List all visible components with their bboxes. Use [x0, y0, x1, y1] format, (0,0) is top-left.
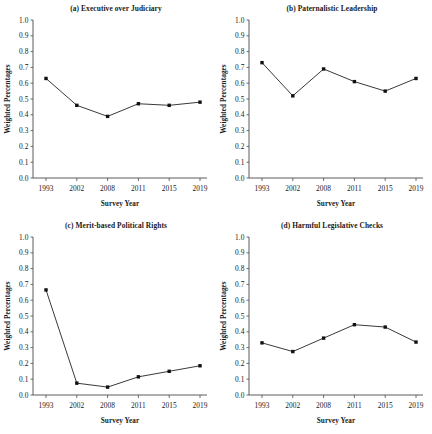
x-tick-label: 1993 — [39, 401, 54, 410]
figure-panel-grid: (a) Executive over Judiciary0.00.10.20.3… — [0, 0, 432, 434]
y-tick-label: 0.3 — [19, 126, 29, 135]
x-tick-label: 2008 — [316, 401, 331, 410]
y-tick-label: 0.7 — [235, 280, 245, 289]
y-tick-label: 0.0 — [19, 174, 29, 183]
y-tick-label: 0.5 — [235, 312, 245, 321]
y-tick-label: 0.9 — [235, 248, 245, 257]
y-tick-label: 0.8 — [19, 47, 29, 56]
x-tick-label: 1993 — [255, 401, 270, 410]
y-tick-label: 0.3 — [235, 343, 245, 352]
x-axis-title: Survey Year — [317, 200, 356, 208]
x-tick-label: 2008 — [316, 184, 331, 193]
y-tick-label: 0.8 — [235, 264, 245, 273]
y-tick-label: 0.4 — [235, 327, 245, 336]
y-tick-label: 0.7 — [235, 63, 245, 72]
data-point-marker[interactable] — [322, 336, 325, 339]
data-point-marker[interactable] — [137, 375, 140, 378]
y-tick-label: 0.2 — [19, 142, 29, 151]
y-tick-label: 1.0 — [235, 16, 245, 25]
data-point-marker[interactable] — [75, 381, 78, 384]
y-axis-title: Weighted Percentages — [4, 281, 12, 351]
x-tick-label: 2011 — [131, 401, 146, 410]
chart-svg-a: (a) Executive over Judiciary0.00.10.20.3… — [0, 0, 216, 217]
y-tick-label: 0.4 — [19, 110, 29, 119]
y-tick-label: 0.9 — [19, 31, 29, 40]
x-tick-label: 2019 — [193, 401, 208, 410]
data-point-marker[interactable] — [353, 323, 356, 326]
series-line — [46, 290, 200, 387]
data-point-marker[interactable] — [384, 89, 387, 92]
x-tick-label: 2019 — [409, 401, 424, 410]
y-tick-label: 0.7 — [19, 63, 29, 72]
y-tick-label: 0.8 — [235, 47, 245, 56]
data-point-marker[interactable] — [260, 341, 263, 344]
data-point-marker[interactable] — [106, 385, 109, 388]
x-axis-title: Survey Year — [101, 417, 140, 425]
x-tick-label: 2019 — [409, 184, 424, 193]
data-point-marker[interactable] — [106, 115, 109, 118]
y-tick-label: 0.1 — [235, 158, 245, 167]
data-point-marker[interactable] — [198, 100, 201, 103]
chart-svg-c: (c) Merit-based Political Rights0.00.10.… — [0, 217, 216, 434]
panel-title: (d) Harmful Legislative Checks — [281, 221, 383, 230]
y-axis-title: Weighted Percentages — [220, 281, 228, 351]
data-point-marker[interactable] — [384, 325, 387, 328]
y-tick-label: 0.6 — [19, 296, 29, 305]
y-tick-label: 0.5 — [19, 95, 29, 104]
data-point-marker[interactable] — [44, 288, 47, 291]
x-tick-label: 2002 — [69, 401, 84, 410]
data-point-marker[interactable] — [291, 94, 294, 97]
y-tick-label: 0.4 — [19, 327, 29, 336]
data-point-marker[interactable] — [322, 67, 325, 70]
y-tick-label: 1.0 — [19, 233, 29, 242]
x-tick-label: 1993 — [255, 184, 270, 193]
chart-panel-b: (b) Paternalistic Leadership0.00.10.20.3… — [216, 0, 432, 217]
x-tick-label: 2002 — [285, 184, 300, 193]
chart-panel-c: (c) Merit-based Political Rights0.00.10.… — [0, 217, 216, 434]
data-point-marker[interactable] — [44, 77, 47, 80]
x-tick-label: 2008 — [100, 401, 115, 410]
x-tick-label: 2011 — [131, 184, 146, 193]
chart-panel-d: (d) Harmful Legislative Checks0.00.10.20… — [216, 217, 432, 434]
data-point-marker[interactable] — [137, 102, 140, 105]
x-axis-title: Survey Year — [317, 417, 356, 425]
x-tick-label: 2002 — [69, 184, 84, 193]
x-tick-label: 2008 — [100, 184, 115, 193]
panel-title: (b) Paternalistic Leadership — [286, 4, 377, 13]
data-point-marker[interactable] — [75, 104, 78, 107]
y-tick-label: 0.5 — [235, 95, 245, 104]
y-tick-label: 1.0 — [235, 233, 245, 242]
y-tick-label: 0.0 — [235, 391, 245, 400]
chart-svg-b: (b) Paternalistic Leadership0.00.10.20.3… — [216, 0, 432, 217]
x-tick-label: 2015 — [162, 401, 177, 410]
panel-title: (c) Merit-based Political Rights — [65, 221, 167, 230]
x-tick-label: 2011 — [347, 401, 362, 410]
data-point-marker[interactable] — [291, 350, 294, 353]
y-tick-label: 0.2 — [235, 142, 245, 151]
y-tick-label: 0.6 — [235, 79, 245, 88]
y-tick-label: 0.1 — [19, 158, 29, 167]
y-tick-label: 0.1 — [19, 375, 29, 384]
y-tick-label: 0.9 — [235, 31, 245, 40]
chart-svg-d: (d) Harmful Legislative Checks0.00.10.20… — [216, 217, 432, 434]
data-point-marker[interactable] — [168, 370, 171, 373]
series-line — [46, 78, 200, 116]
data-point-marker[interactable] — [353, 80, 356, 83]
data-point-marker[interactable] — [414, 340, 417, 343]
x-axis-title: Survey Year — [101, 200, 140, 208]
y-axis-title: Weighted Percentages — [220, 64, 228, 134]
panel-title: (a) Executive over Judiciary — [70, 4, 162, 13]
y-tick-label: 0.6 — [19, 79, 29, 88]
data-point-marker[interactable] — [260, 61, 263, 64]
data-point-marker[interactable] — [168, 104, 171, 107]
x-tick-label: 2002 — [285, 401, 300, 410]
data-point-marker[interactable] — [414, 77, 417, 80]
y-tick-label: 0.0 — [235, 174, 245, 183]
x-tick-label: 1993 — [39, 184, 54, 193]
y-tick-label: 0.8 — [19, 264, 29, 273]
x-tick-label: 2011 — [347, 184, 362, 193]
series-line — [262, 63, 416, 96]
y-tick-label: 0.0 — [19, 391, 29, 400]
x-tick-label: 2015 — [378, 401, 393, 410]
data-point-marker[interactable] — [198, 364, 201, 367]
